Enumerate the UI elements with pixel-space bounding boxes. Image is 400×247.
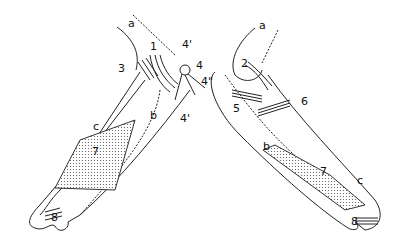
label-b-right: b <box>263 141 270 152</box>
label-a-right: a <box>259 20 266 31</box>
label-8-left: 8 <box>51 212 58 223</box>
label-3: 3 <box>118 63 125 74</box>
label-8-right: 8 <box>351 216 358 227</box>
label-4-prime-lower: 4' <box>180 113 190 124</box>
label-1: 1 <box>150 41 157 52</box>
label-7-right: 7 <box>320 166 327 177</box>
label-a-left: a <box>128 18 135 29</box>
label-4: 4 <box>196 60 203 71</box>
label-5: 5 <box>233 103 240 114</box>
label-b-left: b <box>150 110 157 121</box>
label-2: 2 <box>241 58 248 69</box>
diagram-drawing <box>0 0 400 247</box>
label-6: 6 <box>301 96 308 107</box>
label-4-prime-upper: 4' <box>182 39 192 50</box>
anatomical-diagram: a 1 3 4' 4 4" b 4' c 7 8 a 2 5 6 b 7 c 8 <box>0 0 400 247</box>
label-4-double-prime: 4" <box>201 76 213 87</box>
label-c-right: c <box>357 175 363 186</box>
label-7-left: 7 <box>92 146 99 157</box>
label-c-left: c <box>93 121 99 132</box>
